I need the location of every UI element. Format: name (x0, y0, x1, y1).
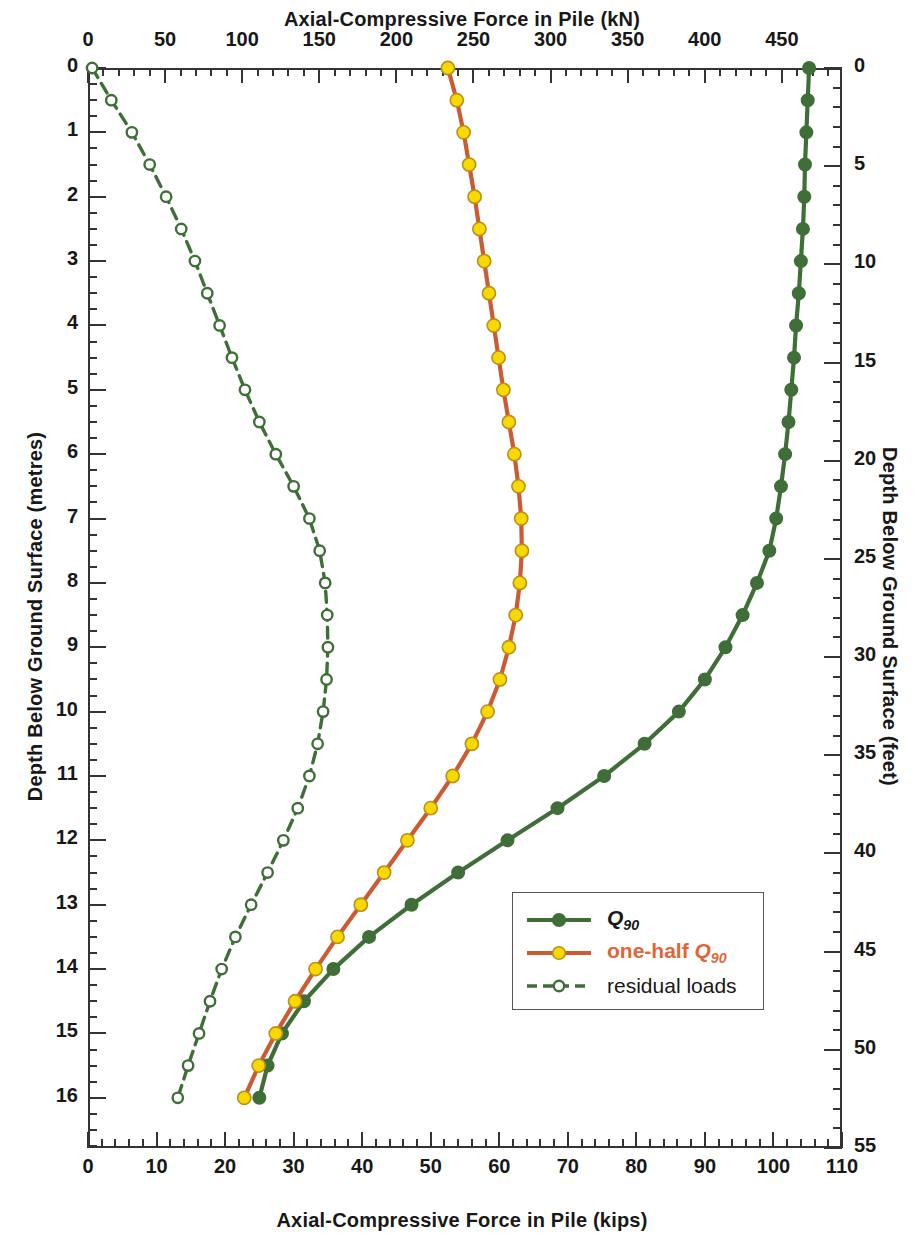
data-point (699, 673, 711, 685)
data-point (492, 351, 505, 364)
data-point (320, 578, 330, 588)
tick-label: 50 (854, 1036, 876, 1059)
data-point (269, 1027, 282, 1040)
data-point (478, 254, 491, 267)
tick-label: 16 (56, 1084, 78, 1107)
data-point (262, 867, 272, 877)
tick-label: 5 (854, 152, 865, 175)
tick-label: 20 (854, 447, 876, 470)
data-point (205, 996, 215, 1006)
data-point (638, 738, 650, 750)
legend-marker (553, 913, 566, 926)
data-point (144, 159, 154, 169)
legend-item-one-half-q90: one-half Q90 (525, 936, 751, 969)
tick-label: 1 (67, 118, 78, 141)
data-point (254, 417, 264, 427)
data-point (240, 385, 250, 395)
data-point (775, 480, 787, 492)
tick-label: 300 (534, 28, 567, 51)
tick-label: 100 (757, 1155, 790, 1178)
data-point (473, 222, 486, 235)
data-point (457, 126, 470, 139)
legend-swatch-one-half-q90 (525, 943, 593, 963)
tick-label: 250 (457, 28, 490, 51)
data-point (441, 61, 454, 74)
data-point (785, 384, 797, 396)
tick-label: 90 (694, 1155, 716, 1178)
legend: Q90 one-half Q90 residual loads (512, 892, 764, 1010)
data-point (378, 866, 391, 879)
tick-label: 7 (67, 505, 78, 528)
right-axis-title: Depth Below Ground Surface (feet) (878, 377, 901, 857)
left-axis-title: Depth Below Ground Surface (metres) (24, 377, 47, 857)
data-point (312, 739, 322, 749)
data-point (719, 641, 731, 653)
data-point (515, 544, 528, 557)
tick-label: 50 (420, 1155, 442, 1178)
tick-label: 40 (854, 839, 876, 862)
data-point (452, 866, 464, 878)
data-point (304, 513, 314, 523)
data-point (800, 126, 812, 138)
data-point (194, 1028, 204, 1038)
data-point (87, 63, 97, 73)
tick-label: 60 (488, 1155, 510, 1178)
tick-label: 35 (854, 741, 876, 764)
data-point (288, 995, 301, 1008)
data-point (318, 706, 328, 716)
data-point (293, 803, 303, 813)
data-point (751, 577, 763, 589)
data-point (788, 351, 800, 363)
data-point (482, 287, 495, 300)
series-one-half-q90 (238, 61, 529, 1104)
data-point (183, 1060, 193, 1070)
data-point (271, 449, 281, 459)
data-point (190, 256, 200, 266)
data-point (468, 190, 481, 203)
tick-label: 30 (854, 643, 876, 666)
data-point (493, 673, 506, 686)
tick-label: 50 (154, 28, 176, 51)
legend-label-residual-loads: residual loads (607, 974, 737, 998)
data-point (288, 481, 298, 491)
data-point (790, 319, 802, 331)
tick-label: 10 (145, 1155, 167, 1178)
tick-label: 0 (854, 54, 865, 77)
data-point (463, 158, 476, 171)
data-point (502, 415, 515, 428)
data-point (799, 158, 811, 170)
tick-label: 200 (380, 28, 413, 51)
data-point (314, 546, 324, 556)
series-residual-loads (87, 63, 333, 1103)
tick-label: 80 (625, 1155, 647, 1178)
data-point (481, 705, 494, 718)
data-point (252, 1059, 265, 1072)
tick-label: 400 (688, 28, 721, 51)
data-point (450, 94, 463, 107)
data-point (487, 319, 500, 332)
data-point (802, 94, 814, 106)
tick-label: 14 (56, 955, 78, 978)
data-point (502, 641, 515, 654)
tick-label: 15 (854, 349, 876, 372)
legend-label-one-half-q90: one-half Q90 (607, 939, 727, 966)
data-point (323, 642, 333, 652)
legend-line-sample (525, 943, 593, 963)
data-point (598, 770, 610, 782)
data-point (509, 608, 522, 621)
tick-label: 9 (67, 633, 78, 656)
tick-label: 100 (226, 28, 259, 51)
data-point (763, 545, 775, 557)
data-point (327, 963, 339, 975)
data-point (363, 931, 375, 943)
bottom-axis-title: Axial-Compressive Force in Pile (kips) (0, 1209, 924, 1232)
data-point (127, 127, 137, 137)
data-point (736, 609, 748, 621)
tick-label: 70 (557, 1155, 579, 1178)
data-point (354, 898, 367, 911)
data-point (465, 737, 478, 750)
tick-label: 20 (214, 1155, 236, 1178)
tick-label: 10 (56, 698, 78, 721)
data-point (253, 1092, 265, 1104)
legend-swatch-residual-loads (525, 976, 593, 996)
